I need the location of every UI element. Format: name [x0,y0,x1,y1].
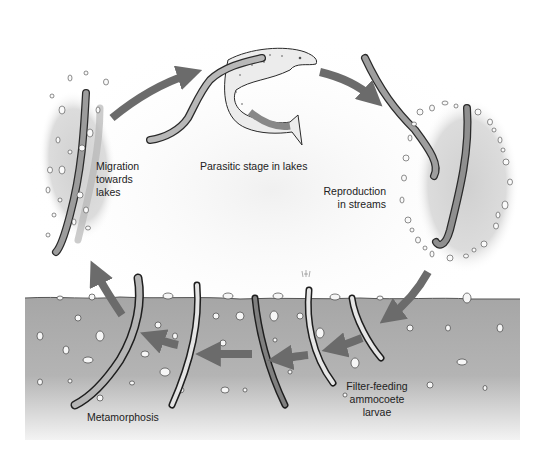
label-migration: Migration towards lakes [96,160,139,199]
label-larvae: Filter-feeding ammocoete larvae [339,380,415,419]
lamprey-life-cycle-diagram [0,0,545,456]
label-metamorphosis: Metamorphosis [87,411,159,424]
label-parasitic: Parasitic stage in lakes [200,160,307,173]
label-reproduction: Reproduction in streams [320,185,386,211]
arrow-larvae-2 [280,355,308,359]
